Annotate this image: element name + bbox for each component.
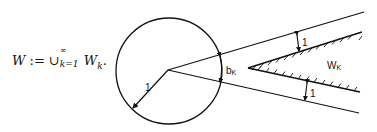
cone-lower-ray xyxy=(168,70,359,113)
upper-gap-label: 1 xyxy=(302,37,308,48)
lower-hatching xyxy=(258,66,357,91)
region-label-sub: K xyxy=(336,64,341,71)
unit-circle xyxy=(116,18,222,124)
cone-diagram: 1 bK WK 1 1 xyxy=(0,0,377,132)
angle-arc xyxy=(220,56,222,82)
region-lower-boundary xyxy=(248,68,360,92)
region-label: WK xyxy=(327,60,341,71)
angle-label: bK xyxy=(226,65,237,76)
lower-gap-arrow xyxy=(305,83,307,100)
upper-gap-arrow xyxy=(297,35,299,51)
angle-label-sub: K xyxy=(232,69,237,76)
radius-label: 1 xyxy=(145,82,151,93)
lower-gap-label: 1 xyxy=(310,88,316,99)
